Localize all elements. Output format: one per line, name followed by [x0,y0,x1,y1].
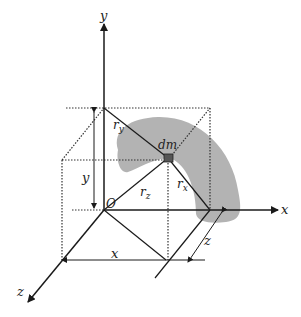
r-y-label: ry [113,118,125,134]
y-axis-label: y [99,8,108,23]
dim-y-label: y [81,170,90,185]
dim-x-label: x [111,246,119,261]
z-axis [28,210,104,302]
inertia-diagram: y x z O dm ry rz rx y x z [0,0,301,317]
dm-label: dm [158,138,177,152]
mass-element-dm [164,154,173,162]
origin-label: O [106,197,116,211]
r-x-label: rx [177,177,188,193]
x-axis-label: x [281,202,289,217]
dim-z-label: z [203,233,211,248]
r-z-label: rz [140,185,151,201]
z-axis-label: z [16,284,24,299]
